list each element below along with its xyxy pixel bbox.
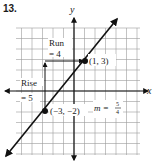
- point-neg3-neg2: [42, 108, 48, 114]
- y-axis-label: y: [69, 4, 75, 15]
- run-label: Run: [49, 38, 65, 48]
- slope-numerator: 5: [116, 101, 119, 107]
- point-1-3: [82, 58, 88, 64]
- rise-label: Rise: [21, 78, 37, 88]
- rise-value: = 5: [21, 93, 33, 103]
- problem-number: 13.: [3, 3, 17, 14]
- x-axis-label: x: [146, 85, 152, 96]
- point-label-neg3-neg2: (−3, −2): [50, 106, 80, 116]
- run-value: = 4: [49, 49, 61, 59]
- slope-denominator: 4: [116, 109, 119, 115]
- slope-label: m =: [94, 103, 109, 113]
- point-label-1-3: (1, 3): [89, 56, 109, 66]
- slope-graph: 13. x y (1, 3) (−3, −2) Run = 4 Rise = 5…: [0, 0, 154, 162]
